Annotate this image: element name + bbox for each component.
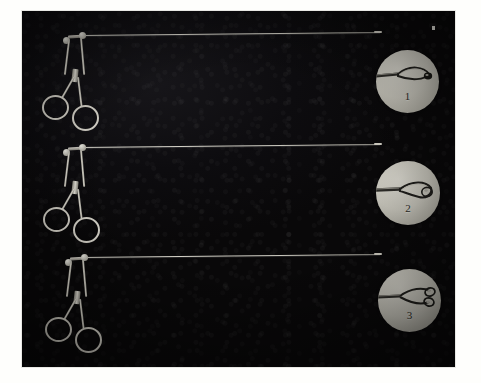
photo-area: 1 2 [22, 11, 455, 367]
shaft-1 [80, 32, 380, 36]
handle-limb-right-3 [79, 299, 85, 329]
inset-number-1: 1 [376, 90, 439, 102]
photographic-plate: 1 2 [0, 0, 481, 383]
shaft-tip-2 [374, 143, 382, 145]
jaw-detail-icon-2 [376, 161, 440, 225]
handle-limb-left-1 [61, 77, 75, 99]
inset-number-3: 3 [378, 309, 441, 321]
shaft-2 [80, 144, 380, 148]
emulsion-speck [432, 26, 435, 30]
handle-limb-left-2 [61, 189, 75, 211]
shaft-tip-3 [374, 253, 382, 255]
finger-ring-left-2 [43, 207, 70, 232]
shaft-3 [80, 254, 380, 258]
inset-number-2: 2 [376, 202, 440, 214]
shank-arm-left-1 [64, 41, 70, 75]
jaw-detail-icon-3 [378, 269, 441, 332]
handle-limb-right-1 [77, 77, 83, 107]
shank-arm-right-3 [82, 260, 87, 297]
shank-arm-right-2 [80, 150, 85, 187]
finger-ring-left-1 [42, 95, 69, 120]
shank-arm-right-1 [80, 38, 85, 75]
shaft-tip-1 [374, 31, 382, 33]
handle-limb-right-2 [77, 189, 83, 219]
detail-inset-1: 1 [376, 50, 439, 113]
handle-limb-left-3 [63, 299, 77, 321]
finger-ring-left-3 [45, 317, 72, 342]
finger-ring-right-3 [75, 327, 102, 353]
jaw-detail-icon-1 [376, 50, 439, 113]
shank-arm-left-2 [64, 153, 70, 187]
detail-inset-2: 2 [376, 161, 440, 225]
shank-arm-left-3 [66, 263, 72, 297]
detail-inset-3: 3 [378, 269, 441, 332]
